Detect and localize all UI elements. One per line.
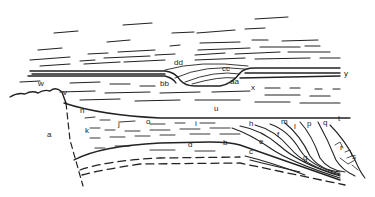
label-m: m: [281, 118, 288, 126]
fault-line: [66, 103, 83, 186]
label-x: x: [251, 84, 255, 92]
cross-section-drawing: [0, 0, 375, 197]
label-f: f: [277, 131, 279, 139]
stratum-u-line: [64, 103, 350, 118]
label-y: y: [344, 70, 348, 78]
label-h: h: [249, 120, 253, 128]
label-c: c: [249, 148, 253, 156]
basin-fill-dashes: [85, 117, 240, 151]
label-t: t: [338, 115, 340, 123]
label-dd: dd: [174, 59, 183, 67]
label-u: u: [214, 105, 218, 113]
label-k: k: [85, 127, 89, 135]
label-aa: aa: [230, 78, 239, 86]
label-w: w: [38, 80, 44, 88]
label-p: p: [307, 120, 311, 128]
label-o: o: [146, 118, 150, 126]
label-s: s: [352, 153, 356, 161]
label-n: n: [80, 107, 84, 115]
label-v: v: [63, 89, 67, 97]
label-j: j: [118, 120, 120, 128]
label-cc: cc: [222, 65, 230, 73]
label-l: l: [294, 123, 296, 131]
coastline-w: [10, 89, 66, 103]
stratum-x-dashes: [20, 81, 340, 103]
label-r: r: [340, 144, 343, 152]
label-i: i: [195, 120, 197, 128]
stratum-d-line: [74, 142, 340, 180]
label-e: e: [259, 138, 263, 146]
label-g: g: [303, 154, 307, 162]
label-d: d: [188, 141, 192, 149]
label-bb: bb: [160, 80, 169, 88]
label-a: a: [47, 131, 51, 139]
label-b: b: [223, 139, 227, 147]
label-q: q: [323, 119, 327, 127]
upper-strata-dashes: [30, 17, 340, 66]
